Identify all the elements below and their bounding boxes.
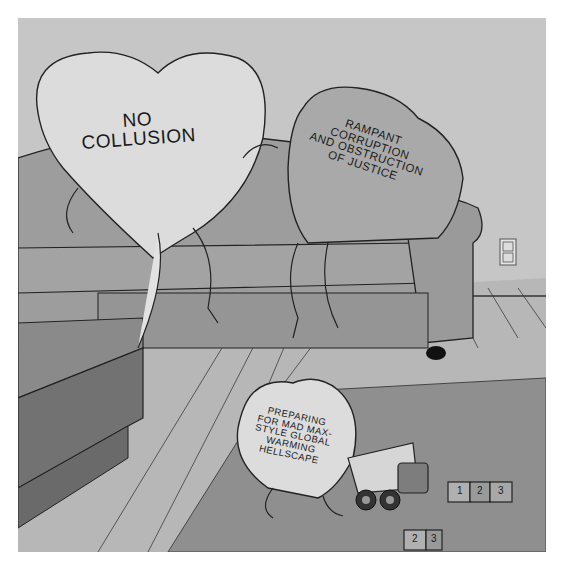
- block-label: 1: [454, 486, 466, 496]
- block-label: 2: [474, 486, 486, 496]
- cartoon-scene: NO COLLUSION RAMPANT CORRUPTION AND OBST…: [18, 18, 546, 552]
- scene-illustration: [18, 18, 546, 552]
- couch-leg: [426, 346, 446, 360]
- wall-outlet: [500, 239, 516, 265]
- block-label: 3: [495, 486, 507, 496]
- block-label: 3: [428, 534, 440, 544]
- block-label: 2: [409, 534, 421, 544]
